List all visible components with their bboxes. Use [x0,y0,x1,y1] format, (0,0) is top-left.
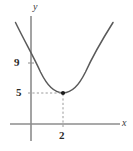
graph-canvas [0,0,133,151]
y-tick-label-9: 9 [14,57,20,68]
y-tick-label-5: 5 [16,87,22,98]
parabola-curve [16,23,114,94]
parabola-figure: y x 9 5 2 [0,0,133,151]
y-axis-label: y [33,2,37,12]
vertex-point [61,91,65,95]
x-tick-label-2: 2 [59,130,65,141]
x-axis-label: x [122,118,126,128]
